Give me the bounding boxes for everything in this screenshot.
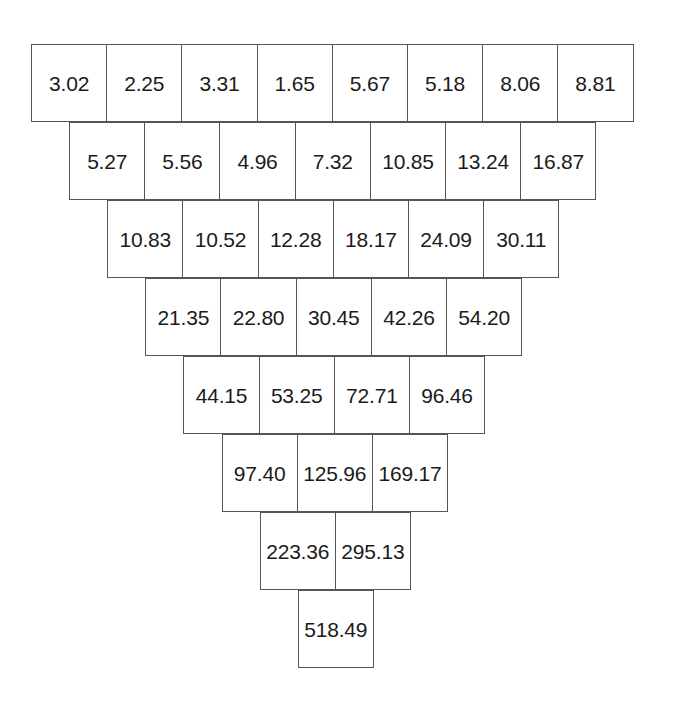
triangle-cell: 5.27 <box>69 122 145 200</box>
triangle-cell: 24.09 <box>408 200 484 278</box>
triangle-row: 10.8310.5212.2818.1724.0930.11 <box>107 200 559 278</box>
triangle-row: 223.36295.13 <box>260 512 411 590</box>
triangle-cell: 22.80 <box>220 278 296 356</box>
triangle-cell: 12.28 <box>258 200 334 278</box>
triangle-cell: 53.25 <box>259 356 335 434</box>
triangle-cell: 21.35 <box>145 278 221 356</box>
triangle-cell: 169.17 <box>372 434 448 512</box>
triangle-row: 5.275.564.967.3210.8513.2416.87 <box>69 122 596 200</box>
triangle-cell: 7.32 <box>295 122 371 200</box>
triangle-cell: 295.13 <box>335 512 411 590</box>
triangle-cell: 5.18 <box>407 44 483 122</box>
triangle-cell: 72.71 <box>334 356 410 434</box>
triangle-cell: 8.81 <box>557 44 633 122</box>
triangle-cell: 30.45 <box>296 278 372 356</box>
triangle-cell: 42.26 <box>371 278 447 356</box>
triangle-cell: 518.49 <box>298 590 374 668</box>
triangle-cell: 97.40 <box>222 434 298 512</box>
triangle-row: 44.1553.2572.7196.46 <box>183 356 485 434</box>
triangle-cell: 4.96 <box>219 122 295 200</box>
triangle-cell: 96.46 <box>409 356 485 434</box>
triangle-cell: 5.56 <box>144 122 220 200</box>
triangle-cell: 10.52 <box>182 200 258 278</box>
triangle-cell: 10.85 <box>370 122 446 200</box>
triangle-cell: 3.02 <box>31 44 107 122</box>
triangle-cell: 54.20 <box>446 278 522 356</box>
inverted-triangle-grid: 3.022.253.311.655.675.188.068.815.275.56… <box>0 0 677 717</box>
triangle-cell: 2.25 <box>106 44 182 122</box>
triangle-cell: 44.15 <box>183 356 259 434</box>
triangle-cell: 223.36 <box>260 512 336 590</box>
triangle-cell: 13.24 <box>445 122 521 200</box>
triangle-row: 97.40125.96169.17 <box>222 434 449 512</box>
triangle-cell: 125.96 <box>297 434 373 512</box>
triangle-row: 3.022.253.311.655.675.188.068.81 <box>31 44 634 122</box>
triangle-cell: 18.17 <box>333 200 409 278</box>
triangle-row: 21.3522.8030.4542.2654.20 <box>145 278 522 356</box>
triangle-row: 518.49 <box>298 590 374 668</box>
triangle-cell: 8.06 <box>482 44 558 122</box>
triangle-cell: 5.67 <box>332 44 408 122</box>
triangle-cell: 3.31 <box>181 44 257 122</box>
triangle-cell: 10.83 <box>107 200 183 278</box>
triangle-cell: 1.65 <box>257 44 333 122</box>
triangle-cell: 16.87 <box>520 122 596 200</box>
triangle-cell: 30.11 <box>483 200 559 278</box>
